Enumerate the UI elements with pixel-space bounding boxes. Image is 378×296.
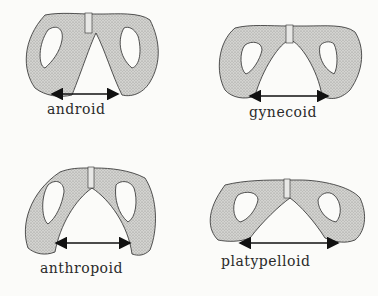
pubic-symphysis	[286, 25, 293, 43]
anthropoid-pelvis	[25, 167, 155, 255]
pubic-symphysis	[88, 167, 94, 188]
platypelloid-pelvis	[210, 179, 364, 243]
android-pelvis	[26, 13, 158, 96]
gynecoid-label: gynecoid	[249, 104, 317, 120]
pelvis-diagram	[0, 0, 378, 296]
pubic-symphysis	[284, 179, 290, 198]
gynecoid-pelvis	[219, 25, 361, 98]
platypelloid-label: platypelloid	[221, 253, 310, 269]
pubic-symphysis	[85, 13, 92, 33]
anthropoid-label: anthropoid	[40, 260, 123, 276]
android-label: android	[47, 101, 105, 117]
